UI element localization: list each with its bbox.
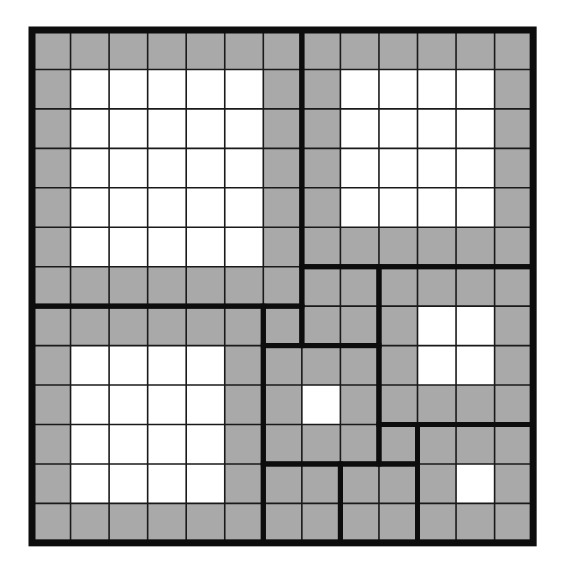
- square-sq-1-a: [263, 306, 302, 345]
- interior-sq-3-bottom-right: [456, 464, 495, 503]
- interior-sq-3-center: [302, 385, 341, 424]
- square-sq-1-b: [379, 425, 418, 464]
- squared-square-diagram: [0, 0, 567, 586]
- tiling-canvas: [0, 0, 567, 586]
- interior-sq-7-top-left: [71, 69, 264, 266]
